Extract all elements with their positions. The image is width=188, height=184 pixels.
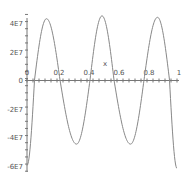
y-tick-label: 0	[19, 77, 23, 85]
y-tick-label: 2E7	[10, 49, 23, 57]
x-tick-label: 0	[25, 69, 29, 77]
data-series-line	[27, 16, 177, 168]
x-tick-label: 0.6	[113, 69, 125, 77]
y-tick-label: -6E7	[7, 163, 23, 171]
x-tick-label: 0.4	[83, 69, 95, 77]
line-chart: 00.20.40.60.814E72E70-2E7-4E7-6E7 x	[0, 0, 188, 184]
y-tick-label: -4E7	[7, 134, 23, 142]
axes	[25, 18, 179, 172]
x-axis-label: x	[103, 60, 107, 68]
axis-ticks	[25, 14, 177, 171]
y-tick-label: 4E7	[10, 20, 23, 28]
x-tick-label: 1	[177, 69, 181, 77]
y-tick-label: -2E7	[7, 106, 23, 114]
